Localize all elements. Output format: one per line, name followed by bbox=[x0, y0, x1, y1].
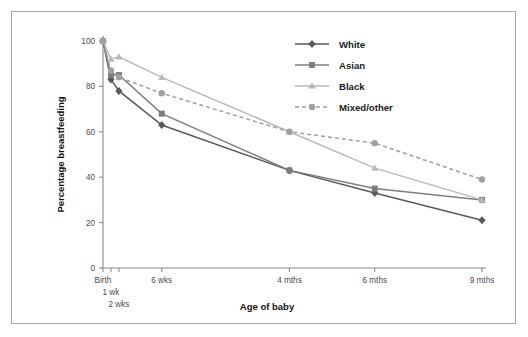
data-point-circle bbox=[286, 129, 292, 135]
data-point-circle bbox=[479, 176, 485, 182]
y-tick-label: 100 bbox=[81, 37, 95, 46]
data-point-circle bbox=[309, 104, 315, 110]
data-point-square bbox=[309, 62, 315, 68]
legend-label-black: Black bbox=[339, 81, 365, 92]
series-group bbox=[99, 37, 485, 224]
x-tick-label: 6 wks bbox=[151, 276, 172, 285]
data-point-square bbox=[159, 111, 165, 117]
y-tick-label: 0 bbox=[90, 264, 95, 273]
series-line bbox=[103, 41, 482, 179]
y-tick-label: 20 bbox=[86, 219, 96, 228]
legend-label-mixed-other: Mixed/other bbox=[339, 102, 393, 113]
data-point-square bbox=[372, 186, 378, 192]
data-point-diamond bbox=[478, 216, 485, 224]
series-asian bbox=[100, 38, 485, 203]
axis-group bbox=[99, 36, 486, 272]
legend-group: WhiteAsianBlackMixed/other bbox=[295, 39, 393, 113]
x-tick-label: Birth bbox=[95, 276, 112, 285]
y-tick-label: 40 bbox=[86, 173, 96, 182]
series-line bbox=[103, 41, 482, 200]
chart-canvas: 020406080100Birth1 wk2 wks6 wks4 mths6 m… bbox=[12, 12, 515, 323]
data-point-circle bbox=[159, 90, 165, 96]
data-point-circle bbox=[100, 38, 106, 44]
series-white bbox=[99, 37, 485, 224]
data-point-circle bbox=[116, 74, 122, 80]
x-tick-label: 4 mths bbox=[277, 276, 302, 285]
x-tick-label: 1 wk bbox=[103, 288, 121, 297]
y-tick-label: 80 bbox=[86, 82, 96, 91]
y-axis-title: Percentage breastfeeding bbox=[55, 96, 66, 212]
x-axis-title: Age of baby bbox=[240, 301, 295, 312]
legend-label-white: White bbox=[339, 39, 365, 50]
data-point-triangle bbox=[115, 53, 122, 59]
series-line bbox=[103, 41, 482, 200]
data-point-diamond bbox=[308, 40, 315, 48]
x-tick-label: 9 mths bbox=[470, 276, 495, 285]
data-point-square bbox=[286, 167, 292, 173]
data-point-circle bbox=[108, 67, 114, 73]
y-tick-label: 60 bbox=[86, 128, 96, 137]
x-tick-label: 2 wks bbox=[108, 300, 129, 309]
x-tick-label: 6 mths bbox=[362, 276, 387, 285]
series-black bbox=[99, 37, 485, 202]
legend-label-asian: Asian bbox=[339, 60, 365, 71]
figure-frame: 020406080100Birth1 wk2 wks6 wks4 mths6 m… bbox=[11, 11, 516, 324]
data-point-circle bbox=[372, 140, 378, 146]
